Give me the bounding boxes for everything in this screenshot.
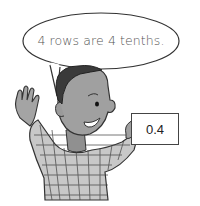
speech-bubble-text: 4 rows are 4 tenths.: [26, 33, 176, 48]
waving-hand: [16, 86, 40, 126]
decimal-card: 0.4: [131, 113, 179, 145]
illustration: 4 rows are 4 tenths. 0.4: [0, 0, 200, 206]
decimal-card-value: 0.4: [146, 122, 164, 137]
boy-head: [56, 66, 116, 136]
boy-illustration: [0, 0, 200, 206]
